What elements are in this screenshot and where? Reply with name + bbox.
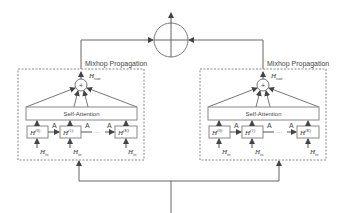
mixhop-module-right: Mixhop Propagation + Hout Self-Attention… [200,60,329,160]
right-module-to-aggregation [189,40,263,69]
mixhop-architecture-diagram: Mixhop Propagation + Hout Self-Attention… [0,0,342,213]
hout-label: Hout [270,72,283,81]
aggregation-node [154,23,188,57]
hin-label: Hin [309,148,319,157]
mixhop-module-left: Mixhop Propagation + Hout Self-Attention… [18,60,147,160]
module-title: Mixhop Propagation [85,60,147,68]
svg-text:···: ··· [94,129,100,135]
svg-text:A: A [234,122,239,129]
svg-text:A: A [289,122,294,129]
self-attention-label: Self-Attention [63,111,99,117]
hout-label: Hout [88,72,101,81]
hin-label: Hin [72,148,82,157]
svg-text:Self-Attention: Self-Attention [245,111,281,117]
hin-label: Hin [221,148,231,157]
hin-label: Hin [127,148,137,157]
module-title: Mixhop Propagation [267,60,329,68]
svg-text:···: ··· [276,129,282,135]
svg-text:A: A [107,122,112,129]
svg-text:+: + [261,82,265,89]
svg-text:A: A [85,122,90,129]
svg-text:A: A [52,122,57,129]
svg-text:A: A [267,122,272,129]
hin-label: Hin [39,148,49,157]
sum-symbol: + [79,82,83,89]
hin-label: Hin [254,148,264,157]
